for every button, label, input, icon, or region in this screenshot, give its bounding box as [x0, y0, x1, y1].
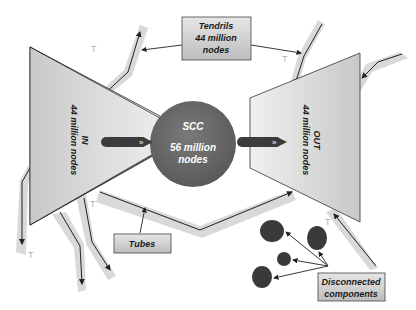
out-title: OUT	[312, 131, 322, 152]
svg-text:»: »	[139, 138, 144, 147]
disconnected-label-box: Disconnected components	[318, 273, 385, 301]
disconnected-subtitle: components	[324, 289, 378, 299]
tendril-marker: T	[90, 199, 96, 209]
svg-text:»: »	[272, 138, 277, 147]
tendrils-label-box: Tendrils 44 million nodes	[142, 17, 301, 60]
tendril-marker: T	[28, 250, 34, 260]
out-size: 44 million nodes	[301, 104, 311, 176]
scc-size-line1: 56 million	[170, 142, 216, 153]
scc-to-out-arrow: »	[237, 137, 287, 147]
tendrils-size-line2: nodes	[203, 45, 230, 55]
disconnected-components	[252, 220, 328, 288]
tubes-label: Tubes	[129, 239, 155, 249]
tendril-bottom-left-1	[52, 212, 86, 292]
tendril-marker: T	[282, 54, 288, 64]
in-to-scc-arrow: »	[101, 137, 153, 147]
scc-size-line2: nodes	[178, 154, 208, 165]
scc-title: SCC	[182, 121, 204, 132]
disconnected-title: Disconnected	[321, 277, 381, 287]
disconnected-node-3	[277, 252, 291, 266]
disconnected-node-2	[307, 226, 327, 250]
in-title: IN	[80, 136, 90, 146]
bow-tie-diagram: » » SCC 56 million nodes IN 44 million n…	[0, 0, 416, 310]
in-size: 44 million nodes	[69, 104, 79, 176]
disconnected-node-4	[252, 266, 272, 288]
tendril-right	[354, 52, 408, 92]
disconnected-node-1	[260, 220, 284, 242]
tendril-marker: T	[325, 217, 331, 227]
tendrils-size-line1: 44 million	[194, 33, 237, 43]
tendril-marker: T	[91, 44, 97, 54]
tendrils-title: Tendrils	[199, 21, 234, 31]
